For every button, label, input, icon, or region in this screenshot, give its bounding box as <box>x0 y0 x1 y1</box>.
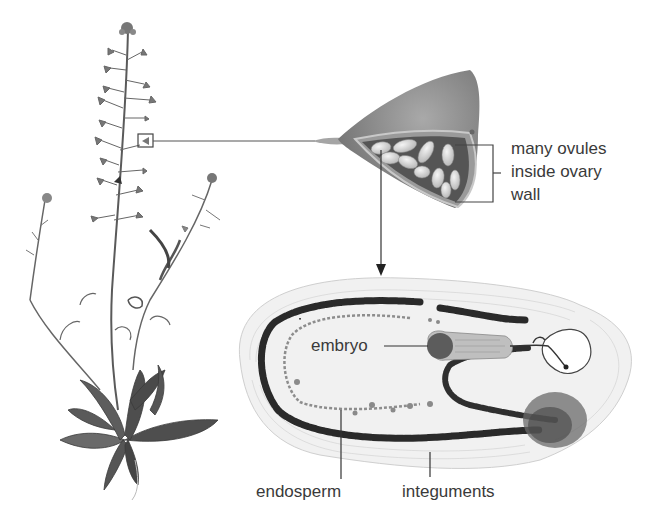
whole-plant <box>26 22 220 500</box>
embryo-label: embryo <box>311 336 368 356</box>
fruit-illustration <box>312 70 480 208</box>
endosperm-label: endosperm <box>256 482 341 502</box>
integuments-label: integuments <box>402 482 495 502</box>
ovules-label: many ovules inside ovary wall <box>511 137 606 206</box>
ovules-label-line3: wall <box>511 183 606 206</box>
ovule-section <box>239 278 631 469</box>
ovules-label-line2: inside ovary <box>511 160 606 183</box>
ovules-label-line1: many ovules <box>511 137 606 160</box>
diagram-canvas: many ovules inside ovary wall embryo end… <box>0 0 655 516</box>
